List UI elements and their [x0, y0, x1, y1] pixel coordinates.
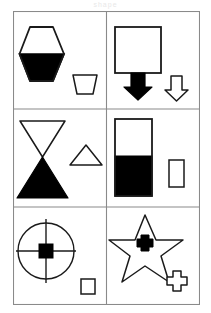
hexagon-bottom-fill: [20, 54, 65, 81]
watermark-text: shape: [0, 0, 211, 9]
square-with-black-arrow-group: [115, 27, 161, 100]
panel-3-canvas: [13, 109, 107, 207]
panel-bottom-right[interactable]: [107, 207, 201, 305]
panel-middle-right[interactable]: [107, 109, 201, 207]
panel-top-right[interactable]: [107, 11, 201, 109]
rectangle-part-filled-group: [115, 119, 152, 196]
figure-root: shape: [0, 0, 211, 313]
panel-4-canvas: [107, 109, 201, 207]
large-square-outline: [115, 27, 161, 73]
center-square-black: [39, 244, 53, 258]
square-outline-small: [81, 279, 95, 294]
hourglass-top-triangle: [20, 121, 65, 157]
panel-2-canvas: [107, 11, 201, 109]
cross-outline-small: [167, 271, 187, 291]
star-with-black-cross-group: [109, 215, 183, 282]
panel-top-left[interactable]: [13, 11, 107, 109]
panel-5-canvas: [13, 207, 107, 305]
hourglass-bottom-triangle: [17, 157, 68, 198]
panel-1-canvas: [13, 11, 107, 109]
rectangle-outline-small: [169, 160, 184, 187]
panel-middle-left[interactable]: [13, 109, 107, 207]
panel-grid: [13, 11, 200, 305]
black-down-arrow: [124, 73, 152, 100]
crosshair-circle-group: [16, 219, 76, 283]
hexagon-half-filled-group: [20, 27, 65, 81]
panel-bottom-left[interactable]: [13, 207, 107, 305]
trapezoid-outline: [73, 75, 97, 94]
panel-6-canvas: [107, 207, 201, 305]
down-arrow-outline: [165, 76, 188, 101]
hourglass-half-filled-group: [17, 121, 68, 198]
rectangle-bottom-fill: [115, 156, 152, 196]
triangle-outline: [70, 145, 102, 165]
